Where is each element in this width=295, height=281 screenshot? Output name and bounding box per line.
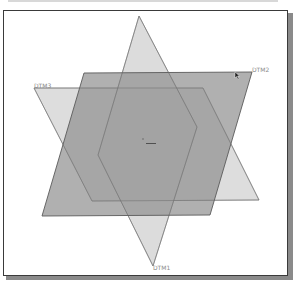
datum-plane-scene[interactable]: DTM3 DTM2 DTM1 — [0, 0, 295, 281]
label-dtm1: DTM1 — [153, 264, 170, 271]
label-dtm3: DTM3 — [34, 82, 51, 89]
label-dtm2: DTM2 — [252, 66, 269, 73]
